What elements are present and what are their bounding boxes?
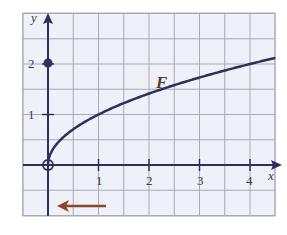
x-axis-label: x [267,168,274,183]
y-tick-label-2: 2 [28,56,35,71]
x-tick-label-3: 3 [197,173,204,188]
y-tick-label-1: 1 [28,107,35,122]
curve-label-F: F [155,73,168,92]
function-graph: y x 1 2 3 4 1 2 F [0,0,287,235]
x-tick-label-4: 4 [246,173,253,188]
y-axis-label: y [29,10,37,25]
filled-point-0-2 [44,59,53,68]
x-tick-label-2: 2 [146,173,153,188]
x-tick-label-1: 1 [96,173,103,188]
